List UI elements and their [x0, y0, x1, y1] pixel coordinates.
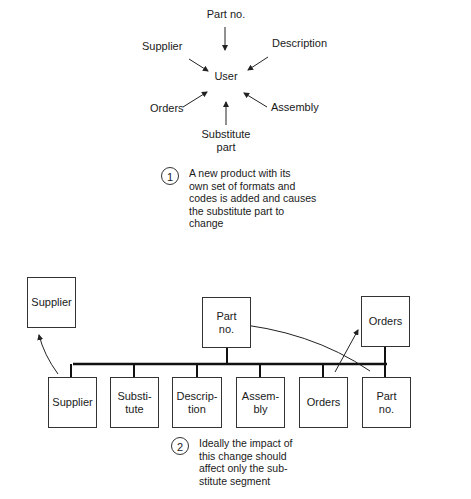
note-number-2: 2 [171, 437, 189, 455]
note-2: Ideally the impact of this change should… [199, 437, 292, 487]
box-supplier: Supplier [48, 377, 97, 428]
box-supplier-detached: Supplier [27, 277, 76, 328]
note-1: A new product with its own set of format… [189, 167, 316, 230]
box-orders-detached: Orders [361, 296, 410, 347]
box-part-no-root: Part no. [202, 297, 251, 348]
label-part-no: Part no. [207, 8, 246, 21]
label-assembly: Assembly [271, 101, 319, 114]
box-description: Descrip- tion [172, 377, 222, 428]
label-description: Description [272, 37, 327, 50]
box-substitute: Substi- tute [110, 377, 159, 428]
label-substitute-part: Substitute part [191, 128, 261, 154]
box-assembly: Assem- bly [236, 377, 285, 428]
note-number-1: 1 [161, 167, 179, 185]
box-part-no: Part no. [362, 377, 411, 428]
label-supplier: Supplier [142, 40, 182, 53]
label-user: User [214, 70, 237, 83]
label-orders: Orders [150, 102, 184, 115]
box-orders: Orders [299, 377, 348, 428]
